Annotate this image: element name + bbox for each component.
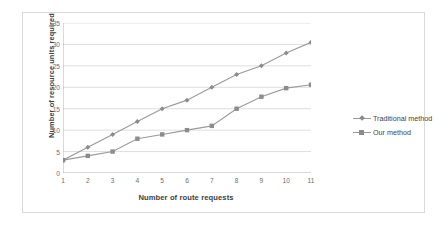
- x-tick-label: 1: [54, 177, 72, 184]
- y-tick-label: 0: [40, 170, 60, 177]
- legend-item-our-method[interactable]: Our method: [353, 125, 448, 139]
- y-tick-label: 35: [40, 20, 60, 27]
- x-tick-label: 5: [153, 177, 171, 184]
- legend-item-traditional-method[interactable]: Traditional method: [353, 111, 448, 125]
- x-tick-label: 6: [178, 177, 196, 184]
- data-point-marker: [234, 72, 239, 77]
- x-axis-title: Number of route requests: [61, 193, 311, 202]
- data-point-marker: [110, 132, 115, 137]
- data-point-marker: [284, 51, 289, 56]
- data-point-marker: [185, 98, 190, 103]
- x-tick-label: 2: [79, 177, 97, 184]
- y-tick-label: 15: [40, 105, 60, 112]
- data-point-marker: [135, 119, 140, 124]
- data-point-marker: [309, 83, 311, 87]
- y-tick-label: 25: [40, 62, 60, 69]
- data-point-marker: [259, 95, 263, 99]
- data-point-marker: [210, 124, 214, 128]
- x-tick-label: 4: [128, 177, 146, 184]
- line-chart-canvas: [63, 23, 311, 173]
- plot-area: 051015202530351234567891011: [63, 23, 311, 173]
- data-point-marker: [284, 86, 288, 90]
- x-tick-label: 3: [104, 177, 122, 184]
- data-point-marker: [209, 85, 214, 90]
- y-tick-label: 20: [40, 84, 60, 91]
- x-tick-label: 9: [252, 177, 270, 184]
- x-tick-label: 11: [302, 177, 320, 184]
- data-point-marker: [160, 132, 164, 136]
- data-point-marker: [234, 107, 238, 111]
- y-tick-label: 10: [40, 127, 60, 134]
- y-tick-label: 30: [40, 41, 60, 48]
- y-tick-label: 5: [40, 148, 60, 155]
- series-line-1: [63, 85, 311, 160]
- data-point-marker: [135, 137, 139, 141]
- data-point-marker: [185, 128, 189, 132]
- data-point-marker: [259, 63, 264, 68]
- chart-figure: Number of resource units required Number…: [0, 0, 448, 228]
- data-point-marker: [86, 154, 90, 158]
- legend-label-traditional-method: Traditional method: [373, 114, 432, 123]
- chart-legend: Traditional method Our method: [353, 111, 448, 139]
- chart-frame: Number of resource units required Number…: [22, 12, 425, 213]
- legend-label-our-method: Our method: [373, 128, 411, 137]
- x-tick-label: 7: [203, 177, 221, 184]
- legend-swatch-square-icon: [353, 127, 371, 137]
- legend-swatch-diamond-icon: [353, 113, 371, 123]
- data-point-marker: [63, 158, 65, 162]
- data-point-marker: [110, 149, 114, 153]
- x-tick-label: 8: [228, 177, 246, 184]
- x-tick-label: 10: [277, 177, 295, 184]
- data-point-marker: [160, 106, 165, 111]
- data-point-marker: [85, 145, 90, 150]
